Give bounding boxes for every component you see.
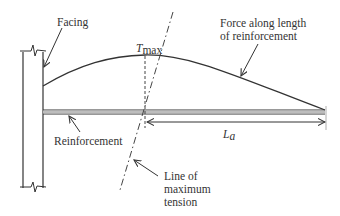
force-leader-arrow — [241, 44, 258, 76]
max-tension-label-line1: Line of — [164, 170, 198, 182]
max-tension-label-line3: tension — [164, 196, 197, 208]
max-tension-leader-arrow — [134, 160, 158, 176]
tmax-sub: max — [142, 44, 162, 56]
reinforcement-force-diagram: Facing Force along length of reinforceme… — [0, 0, 340, 216]
reinforcement-leader-arrow — [69, 116, 80, 132]
tmax-label: Tmax — [136, 42, 162, 56]
reinforcement-strip — [43, 110, 325, 114]
force-curve — [43, 55, 325, 110]
facing-panel — [20, 45, 46, 192]
force-label-line1: Force along length — [220, 17, 306, 30]
facing-label: Facing — [57, 16, 89, 29]
max-tension-line — [120, 12, 173, 190]
force-label-line2: of reinforcement — [220, 30, 298, 42]
top-break-symbol — [20, 45, 46, 56]
facing-leader-arrow — [44, 28, 62, 67]
reinforcement-label: Reinforcement — [54, 135, 123, 147]
max-tension-label-line2: maximum — [164, 183, 211, 195]
la-sub: a — [229, 130, 235, 142]
la-label: La — [222, 128, 235, 142]
la-main: L — [222, 128, 229, 140]
bottom-break-symbol — [20, 182, 46, 192]
